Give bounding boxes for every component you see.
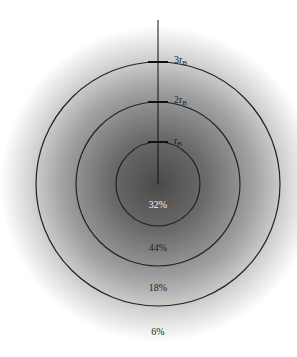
percent-beyond-3rb: 6% [151, 326, 164, 337]
percent-inside-rb: 32% [149, 199, 167, 210]
percent-2rb-to-3rb: 18% [149, 282, 167, 293]
radial-glow-background [0, 14, 297, 354]
percent-rb-to-2rb: 44% [149, 242, 167, 253]
concentric-rings-diagram: 3rB 2rB rB 32% 44% 18% 6% [0, 0, 297, 357]
